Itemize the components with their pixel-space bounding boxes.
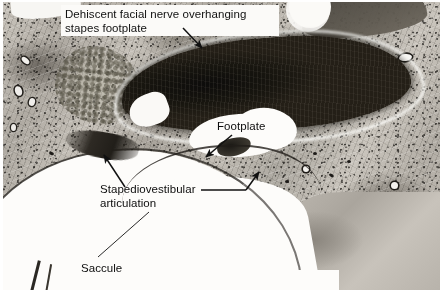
annotation-stapediovestibular: Stapediovestibular articulation <box>100 183 210 210</box>
annotation-saccule: Saccule <box>81 262 122 276</box>
vascular-canal <box>11 124 16 131</box>
histology-figure: Dehiscent facial nerve overhanging stape… <box>0 0 443 295</box>
annotation-facial-nerve: Dehiscent facial nerve overhanging stape… <box>65 8 279 35</box>
bone-lacuna <box>347 160 351 163</box>
vascular-canal <box>391 182 398 189</box>
bone-lacuna <box>313 152 317 155</box>
micrograph-plate: Dehiscent facial nerve overhanging stape… <box>3 2 440 290</box>
annotation-footplate: Footplate <box>217 120 265 134</box>
